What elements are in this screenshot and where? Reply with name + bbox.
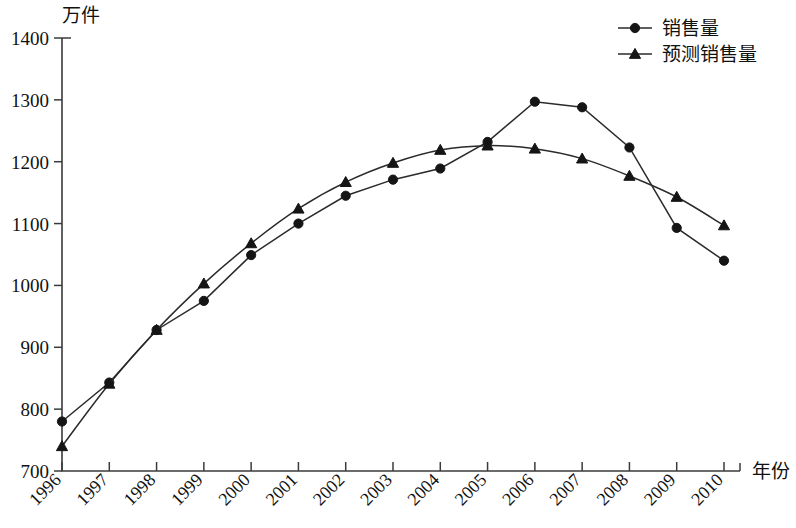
data-point-triangle	[340, 177, 351, 187]
x-tick-label: 2007	[545, 470, 585, 510]
series-forecast	[56, 140, 729, 451]
x-tick-label: 2002	[309, 470, 349, 510]
data-point-circle	[57, 417, 66, 426]
data-point-triangle	[293, 203, 304, 213]
y-tick-label: 1300	[11, 90, 49, 111]
data-point-triangle	[246, 238, 257, 248]
sales-forecast-line-chart: 70080090010001100120013001400 1996199719…	[0, 0, 796, 528]
data-point-circle	[294, 219, 303, 228]
chart-container: 70080090010001100120013001400 1996199719…	[0, 0, 796, 528]
y-axis-ticks: 70080090010001100120013001400	[11, 28, 62, 482]
series-group	[56, 97, 729, 451]
x-tick-label: 2006	[498, 470, 538, 510]
legend-label: 销售量	[662, 17, 719, 39]
x-tick-label: 2004	[404, 470, 444, 510]
data-point-circle	[578, 103, 587, 112]
x-tick-label: 2003	[356, 470, 396, 510]
series-line	[62, 146, 724, 447]
x-tick-label: 2010	[687, 470, 727, 510]
data-point-triangle	[624, 170, 635, 180]
legend-marker-circle	[630, 23, 639, 32]
x-tick-label: 2001	[262, 470, 302, 510]
axes-group	[62, 38, 740, 471]
data-point-circle	[672, 223, 681, 232]
axis-lines	[62, 38, 740, 471]
x-tick-label: 2005	[451, 470, 491, 510]
data-point-circle	[530, 97, 539, 106]
x-axis-unit-label: 年份	[752, 460, 790, 482]
y-tick-label: 900	[21, 337, 50, 358]
data-point-triangle	[671, 191, 682, 201]
legend: 销售量预测销售量	[618, 17, 757, 65]
legend-item-forecast[interactable]: 预测销售量	[618, 43, 757, 65]
x-tick-label: 1997	[73, 470, 113, 510]
x-tick-label: 2008	[593, 470, 633, 510]
data-point-circle	[199, 296, 208, 305]
data-point-circle	[388, 175, 397, 184]
data-point-triangle	[718, 220, 729, 230]
x-axis-ticks: 1996199719981999200020012002200320042005…	[25, 462, 727, 509]
y-tick-label: 1400	[11, 28, 49, 49]
y-tick-label: 1000	[11, 275, 49, 296]
data-point-circle	[719, 256, 728, 265]
y-tick-label: 1100	[12, 214, 49, 235]
series-sales	[57, 97, 728, 426]
y-axis-unit-label: 万件	[62, 4, 100, 26]
y-tick-label: 800	[21, 399, 50, 420]
x-tick-label: 1998	[120, 470, 160, 510]
legend-item-sales[interactable]: 销售量	[618, 17, 719, 39]
data-point-circle	[341, 191, 350, 200]
data-point-circle	[436, 164, 445, 173]
x-tick-label: 2000	[214, 470, 254, 510]
x-tick-label: 1999	[167, 470, 207, 510]
y-tick-label: 1200	[11, 152, 49, 173]
series-line	[62, 102, 724, 422]
data-point-circle	[625, 143, 634, 152]
data-point-circle	[247, 251, 256, 260]
x-tick-label: 2009	[640, 470, 680, 510]
legend-label: 预测销售量	[662, 43, 757, 65]
